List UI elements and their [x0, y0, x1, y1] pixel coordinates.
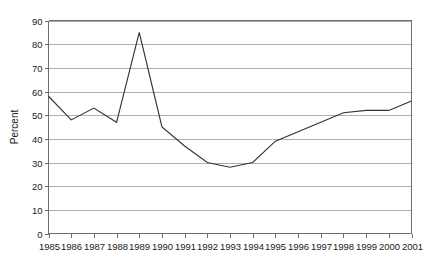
- x-tick-label: 1986: [61, 241, 82, 252]
- y-tick-label: 60: [32, 87, 43, 98]
- y-tick-label: 0: [37, 229, 42, 240]
- x-tick-label: 1987: [84, 241, 105, 252]
- y-tick-label: 50: [32, 110, 43, 121]
- line-chart: 0102030405060708090 19851986198719881989…: [0, 0, 427, 264]
- x-tick-label: 1995: [265, 241, 286, 252]
- x-tick-label: 1998: [333, 241, 354, 252]
- x-tick-label: 1988: [107, 241, 128, 252]
- y-tick-label: 80: [32, 39, 43, 50]
- x-tick-label: 1989: [129, 241, 150, 252]
- chart-canvas: 0102030405060708090 19851986198719881989…: [0, 0, 427, 264]
- y-axis-title: Percent: [9, 110, 20, 145]
- x-tick-label: 1999: [356, 241, 377, 252]
- y-tick-label: 70: [32, 63, 43, 74]
- x-tick-label: 1991: [175, 241, 196, 252]
- y-tick-label: 90: [32, 16, 43, 27]
- x-tick-label: 2000: [379, 241, 400, 252]
- x-tick-label: 1994: [243, 241, 264, 252]
- x-tick-label: 1985: [39, 241, 60, 252]
- x-tick-label: 1993: [220, 241, 241, 252]
- y-tick-label: 10: [32, 205, 43, 216]
- x-tick-label: 2001: [402, 241, 423, 252]
- x-axis-tick-labels: 1985198619871988198919901991199219931994…: [39, 241, 423, 252]
- x-tick-label: 1992: [197, 241, 218, 252]
- y-tick-label: 40: [32, 134, 43, 145]
- chart-background: [0, 0, 427, 264]
- y-tick-label: 20: [32, 181, 43, 192]
- y-tick-label: 30: [32, 158, 43, 169]
- x-tick-label: 1997: [311, 241, 332, 252]
- x-tick-label: 1996: [288, 241, 309, 252]
- x-tick-label: 1990: [152, 241, 173, 252]
